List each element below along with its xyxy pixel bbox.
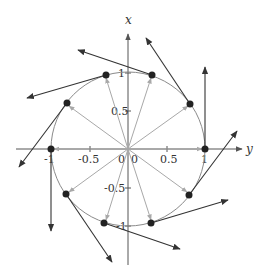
vertical-axis-label: x xyxy=(125,13,132,27)
point xyxy=(48,146,55,153)
point xyxy=(148,220,155,227)
unit-circle-vector-diagram: y x -1 -0.5 0 0 0.5 1 1 0.5 -0.5 -1 xyxy=(0,0,263,275)
horizontal-axis-label: y xyxy=(245,142,253,156)
point xyxy=(101,220,108,227)
point xyxy=(103,72,110,79)
tick-label-v: 1 xyxy=(118,67,125,80)
tick-label-v: -1 xyxy=(116,220,127,233)
tick-label-v: 0.5 xyxy=(111,105,129,118)
point xyxy=(63,191,70,198)
tick-label-h: -1 xyxy=(44,153,55,166)
point xyxy=(202,146,209,153)
point xyxy=(187,101,194,108)
point xyxy=(64,100,71,107)
point xyxy=(149,72,156,79)
point xyxy=(186,192,193,199)
tick-label-h: -0.5 xyxy=(78,153,99,166)
tick-label-h: 0.5 xyxy=(160,153,178,166)
